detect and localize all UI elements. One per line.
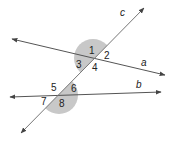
angle-label-3: 3: [76, 59, 82, 70]
line-c: [21, 8, 144, 133]
transversal-diagram: a b c 1 2 3 4 5 6 7 8: [0, 0, 170, 141]
line-label-c: c: [120, 7, 125, 18]
angle-label-8: 8: [59, 98, 65, 109]
line-label-a: a: [141, 57, 147, 68]
angle-label-1: 1: [89, 45, 95, 56]
line-b: [10, 92, 161, 97]
angle-label-7: 7: [41, 96, 47, 107]
angle-label-5: 5: [51, 82, 57, 93]
angle-label-4: 4: [92, 62, 98, 73]
angle-label-2: 2: [104, 50, 110, 61]
line-label-b: b: [136, 79, 142, 90]
angle-label-6: 6: [71, 83, 77, 94]
